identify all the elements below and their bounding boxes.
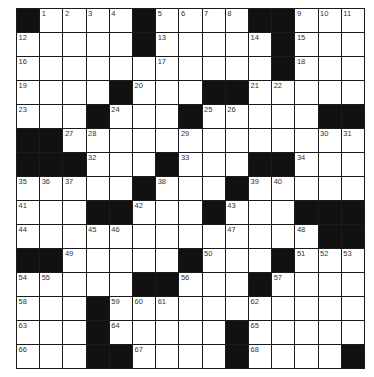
grid-cell[interactable]: 32 [87,153,109,176]
grid-cell[interactable] [63,273,85,296]
grid-cell[interactable] [110,249,132,272]
grid-cell[interactable] [110,57,132,80]
grid-cell[interactable] [156,105,178,128]
grid-cell[interactable] [319,177,341,200]
grid-cell[interactable] [319,345,341,368]
grid-cell[interactable] [40,225,62,248]
grid-cell[interactable] [226,297,248,320]
grid-cell[interactable]: 48 [295,225,317,248]
grid-cell[interactable]: 49 [63,249,85,272]
grid-cell[interactable] [295,273,317,296]
grid-cell[interactable]: 21 [249,81,271,104]
grid-cell[interactable]: 58 [17,297,39,320]
grid-cell[interactable] [179,225,201,248]
grid-cell[interactable]: 52 [319,249,341,272]
grid-cell[interactable]: 38 [156,177,178,200]
grid-cell[interactable] [203,57,225,80]
grid-cell[interactable]: 9 [295,9,317,32]
grid-cell[interactable] [295,129,317,152]
grid-cell[interactable] [133,57,155,80]
grid-cell[interactable] [110,153,132,176]
grid-cell[interactable]: 28 [87,129,109,152]
grid-cell[interactable] [203,177,225,200]
grid-cell[interactable]: 5 [156,9,178,32]
grid-cell[interactable]: 8 [226,9,248,32]
grid-cell[interactable]: 44 [17,225,39,248]
grid-cell[interactable] [295,177,317,200]
grid-cell[interactable]: 63 [17,321,39,344]
grid-cell[interactable] [63,201,85,224]
grid-cell[interactable] [226,33,248,56]
grid-cell[interactable]: 45 [87,225,109,248]
grid-cell[interactable]: 60 [133,297,155,320]
grid-cell[interactable]: 11 [342,9,364,32]
grid-cell[interactable] [40,321,62,344]
grid-cell[interactable] [63,81,85,104]
grid-cell[interactable] [319,153,341,176]
grid-cell[interactable] [179,81,201,104]
grid-cell[interactable] [63,321,85,344]
grid-cell[interactable] [226,273,248,296]
grid-cell[interactable] [87,57,109,80]
grid-cell[interactable] [249,225,271,248]
grid-cell[interactable] [272,225,294,248]
grid-cell[interactable] [87,177,109,200]
grid-cell[interactable] [63,345,85,368]
grid-cell[interactable] [133,321,155,344]
grid-cell[interactable]: 65 [249,321,271,344]
grid-cell[interactable] [272,321,294,344]
grid-cell[interactable] [226,153,248,176]
grid-cell[interactable] [179,345,201,368]
grid-cell[interactable] [226,249,248,272]
grid-cell[interactable] [156,129,178,152]
grid-cell[interactable]: 67 [133,345,155,368]
grid-cell[interactable] [40,81,62,104]
grid-cell[interactable]: 64 [110,321,132,344]
grid-cell[interactable]: 57 [272,273,294,296]
grid-cell[interactable] [156,225,178,248]
grid-cell[interactable] [156,201,178,224]
grid-cell[interactable]: 33 [179,153,201,176]
grid-cell[interactable] [87,249,109,272]
grid-cell[interactable] [272,297,294,320]
grid-cell[interactable]: 10 [319,9,341,32]
grid-cell[interactable]: 61 [156,297,178,320]
grid-cell[interactable]: 27 [63,129,85,152]
grid-cell[interactable] [87,81,109,104]
grid-cell[interactable] [203,321,225,344]
grid-cell[interactable] [133,249,155,272]
grid-cell[interactable] [63,57,85,80]
grid-cell[interactable] [319,273,341,296]
grid-cell[interactable]: 7 [203,9,225,32]
grid-cell[interactable] [63,297,85,320]
grid-cell[interactable]: 19 [17,81,39,104]
grid-cell[interactable] [40,345,62,368]
grid-cell[interactable]: 47 [226,225,248,248]
grid-cell[interactable] [319,33,341,56]
grid-cell[interactable] [249,201,271,224]
grid-cell[interactable] [179,201,201,224]
grid-cell[interactable] [319,57,341,80]
grid-cell[interactable] [342,321,364,344]
grid-cell[interactable]: 59 [110,297,132,320]
grid-cell[interactable] [342,153,364,176]
grid-cell[interactable] [342,177,364,200]
grid-cell[interactable]: 25 [203,105,225,128]
grid-cell[interactable]: 23 [17,105,39,128]
grid-cell[interactable] [133,105,155,128]
grid-cell[interactable] [133,225,155,248]
grid-cell[interactable]: 29 [179,129,201,152]
grid-cell[interactable] [203,345,225,368]
grid-cell[interactable]: 66 [17,345,39,368]
grid-cell[interactable]: 50 [203,249,225,272]
grid-cell[interactable] [342,57,364,80]
grid-cell[interactable]: 12 [17,33,39,56]
grid-cell[interactable] [203,225,225,248]
grid-cell[interactable] [40,201,62,224]
grid-cell[interactable]: 34 [295,153,317,176]
grid-cell[interactable] [63,225,85,248]
grid-cell[interactable] [226,129,248,152]
grid-cell[interactable] [203,129,225,152]
grid-cell[interactable]: 53 [342,249,364,272]
grid-cell[interactable] [110,177,132,200]
